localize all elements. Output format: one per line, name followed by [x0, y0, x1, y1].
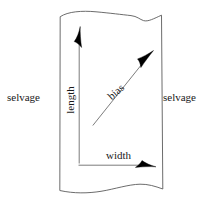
- label-selvage-left: selvage: [7, 92, 40, 103]
- bias-arrow-head: [138, 51, 154, 68]
- label-width: width: [106, 150, 131, 161]
- width-arrow: [79, 161, 157, 168]
- label-selvage-right: selvage: [163, 92, 196, 103]
- fabric-grain-diagram: selvage selvage length bias width: [0, 0, 217, 207]
- width-arrow-head: [135, 161, 156, 168]
- diagram-canvas: [0, 0, 217, 207]
- label-length: length: [65, 86, 76, 114]
- length-arrow-head: [74, 27, 81, 48]
